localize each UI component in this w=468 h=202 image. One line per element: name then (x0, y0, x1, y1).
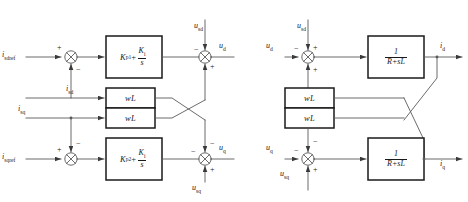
pi1-den: s (138, 58, 145, 68)
plant-d-den: R+sL (385, 57, 407, 67)
sign-sum2-feedback: − (76, 140, 81, 148)
sign-sum6-left: − (294, 147, 299, 155)
sign-sum3-top: − (194, 46, 199, 54)
label-usq-left: usq (192, 184, 201, 194)
label-usd-right: usd (297, 22, 306, 32)
block-plant-d-content: 1R+sL (368, 36, 424, 78)
label-isqref: isqref (2, 153, 15, 163)
label-id: id (440, 42, 445, 52)
plant-d-num: 1 (392, 48, 400, 57)
sign-sum2-input: + (57, 146, 62, 154)
block-plant-q-content: 1R+sL (368, 138, 424, 180)
sign-sum5-top: + (313, 44, 318, 52)
pi2-num: Ki (137, 149, 148, 160)
sign-sum6-top: − (313, 138, 318, 146)
plant-q-den: R+sL (385, 159, 407, 169)
sign-sum1-feedback: − (76, 66, 81, 74)
block-pi-controller-1-content: Kp1+Kis (106, 36, 162, 78)
label-usd-left: usd (194, 22, 203, 32)
label-uq-right: uq (266, 144, 273, 154)
sign-sum4-top: − (210, 140, 215, 148)
pi1-num: Ki (137, 47, 148, 58)
label-isd: isd (66, 85, 73, 95)
block-pi-controller-2-content: Kp2+Kis (106, 138, 162, 180)
sign-sum1-input: + (57, 44, 62, 52)
block-wl-1-content: wL (106, 88, 155, 108)
sign-sum5-left: − (294, 45, 299, 53)
label-isq: isq (18, 105, 25, 115)
block-wl-2-content: wL (106, 108, 155, 128)
block-wl-4-content: wL (285, 108, 334, 128)
sign-sum4-bottom: + (210, 166, 215, 174)
wire-wl1-cross (155, 98, 205, 120)
block-diagram-canvas: isdref + − isd isq isqref + − usd − + ud… (0, 0, 468, 202)
label-ud-right: ud (266, 42, 273, 52)
label-isdref: isdref (2, 51, 15, 61)
label-usq-right: usq (280, 170, 289, 180)
label-uq-left: uq (219, 144, 226, 154)
sign-sum3-bottom: + (210, 63, 215, 71)
sign-sum4-left: − (191, 148, 196, 156)
sign-sum6-bottom: + (313, 166, 318, 174)
block-wl-3-content: wL (285, 88, 334, 108)
label-iq: iq (440, 160, 445, 170)
junction-dot-isq (70, 117, 73, 120)
sign-sum5-bottom: + (313, 66, 318, 74)
plant-q-num: 1 (392, 150, 400, 159)
pi2-den: s (138, 160, 145, 170)
label-ud-left: ud (219, 42, 226, 52)
